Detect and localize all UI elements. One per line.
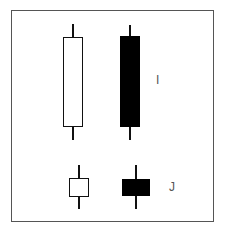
white-candle-lower-wick (78, 196, 80, 209)
white-candle-short-body (69, 178, 89, 197)
group-label-j: J (169, 180, 175, 194)
black-candle-lower-wick (129, 127, 131, 140)
black-candle-long-body (120, 36, 140, 127)
black-candle-short-body (122, 179, 150, 196)
white-candle-upper-wick (72, 24, 74, 38)
white-candle-upper-wick (78, 165, 80, 179)
white-candle-lower-wick (72, 126, 74, 140)
black-candle-upper-wick (135, 165, 137, 179)
diagram-frame (11, 10, 214, 222)
white-candle-long-body (63, 37, 83, 127)
group-label-i: I (156, 73, 159, 87)
black-candle-lower-wick (135, 196, 137, 209)
